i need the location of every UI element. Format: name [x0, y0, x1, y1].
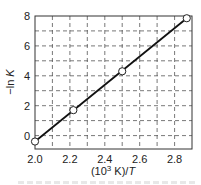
y-axis-label: −ln K: [4, 69, 16, 95]
plot-frame: [35, 16, 192, 149]
y-tick-label: 8: [24, 10, 30, 22]
data-point-marker: [119, 68, 126, 75]
y-axis: 02468: [24, 10, 30, 142]
data-point-marker: [183, 15, 190, 22]
y-tick-label: 2: [24, 100, 30, 112]
x-axis: 2.02.22.42.62.8: [27, 153, 182, 165]
chart: 2.02.22.42.62.8 02468 (103 K)/T −ln K: [0, 0, 201, 185]
fit-line: [35, 18, 187, 141]
x-tick-label: 2.8: [167, 153, 182, 165]
fit-line-path: [35, 18, 187, 141]
y-tick-label: 0: [24, 130, 30, 142]
y-tick-label: 4: [24, 70, 30, 82]
x-tick-label: 2.6: [132, 153, 147, 165]
data-point-marker: [70, 107, 77, 114]
y-tick-label: 6: [24, 40, 30, 52]
truncated-caption: [18, 181, 197, 184]
x-tick-label: 2.0: [27, 153, 42, 165]
x-axis-label: (103 K)/T: [91, 164, 136, 177]
grid: [35, 16, 192, 149]
data-point-marker: [31, 138, 38, 145]
x-tick-label: 2.2: [62, 153, 77, 165]
